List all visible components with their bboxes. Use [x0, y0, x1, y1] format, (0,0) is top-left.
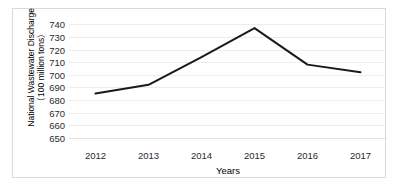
y-axis-tick-label: 740	[49, 19, 65, 30]
y-axis-title: National Wastewater Discharge （100 milli…	[26, 0, 47, 137]
y-axis-tick-label: 660	[49, 120, 65, 131]
series-line	[96, 28, 361, 94]
y-axis-title-line-1: National Wastewater Discharge	[26, 0, 36, 137]
y-axis-tick-label: 670	[49, 107, 65, 118]
x-axis-tick-label: 2014	[191, 150, 212, 161]
y-axis-tick-label: 710	[49, 57, 65, 68]
y-axis-tick-label: 690	[49, 82, 65, 93]
x-axis-title: Years	[69, 165, 387, 176]
x-axis-tick-label: 2012	[85, 150, 106, 161]
y-axis-tick-label: 720	[49, 44, 65, 55]
x-axis-tick-label: 2017	[350, 150, 371, 161]
y-axis-tick-label: 730	[49, 31, 65, 42]
line-series	[69, 18, 387, 144]
x-axis-tick-label: 2015	[244, 150, 265, 161]
y-axis-tick-label: 650	[49, 132, 65, 143]
y-axis-title-line-2: （100 million tons）	[36, 0, 46, 137]
x-axis-tick-label: 2013	[138, 150, 159, 161]
plot-area: 650660670680690700710720730740 201220132…	[69, 18, 387, 144]
chart-figure: National Wastewater Discharge （100 milli…	[12, 8, 386, 178]
y-axis-tick-label: 700	[49, 69, 65, 80]
y-axis-tick-label: 680	[49, 94, 65, 105]
x-axis-tick-label: 2016	[297, 150, 318, 161]
